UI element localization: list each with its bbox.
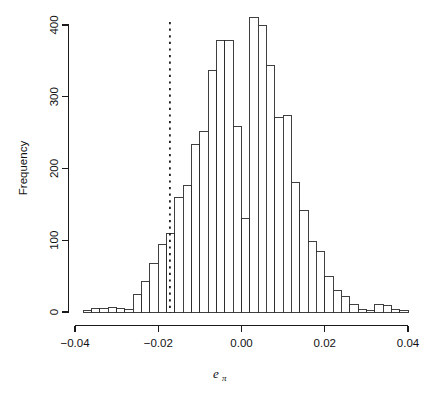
histogram-bar <box>291 182 299 312</box>
histogram-bar <box>308 242 316 312</box>
histogram-bar <box>117 308 125 312</box>
histogram-bar <box>250 18 258 312</box>
histogram-bar <box>366 311 374 312</box>
histogram-plot: 0100200300400 −0.04−0.020.000.020.04 Fre… <box>0 0 438 396</box>
histogram-bar <box>100 308 108 312</box>
x-axis-title-subscript: π <box>222 373 227 383</box>
histogram-bar <box>133 294 141 312</box>
histogram-bar <box>316 252 324 312</box>
y-tick-label: 200 <box>48 159 60 178</box>
histogram-bar <box>383 306 391 312</box>
histogram-bar <box>142 281 150 312</box>
x-tick-label: 0.04 <box>397 337 420 349</box>
y-tick-label: 300 <box>48 87 60 106</box>
histogram-bar <box>108 308 116 312</box>
histogram-bar <box>275 118 283 312</box>
y-tick-label: 400 <box>48 15 60 34</box>
histogram-bar <box>83 311 91 312</box>
histogram-bar <box>175 198 183 312</box>
histogram-figure: 0100200300400 −0.04−0.020.000.020.04 Fre… <box>0 0 438 396</box>
y-axis-ticks: 0100200300400 <box>48 15 69 315</box>
histogram-bar <box>358 310 366 312</box>
x-axis-title-base: e <box>213 366 219 381</box>
histogram-bar <box>158 245 166 312</box>
x-tick-label: −0.02 <box>144 337 173 349</box>
histogram-bar <box>258 25 266 312</box>
histogram-bars <box>83 18 408 312</box>
y-axis-title: Frequency <box>17 141 29 196</box>
x-tick-label: 0.02 <box>314 337 336 349</box>
x-tick-label: −0.04 <box>60 337 90 349</box>
histogram-bar <box>183 185 191 312</box>
histogram-bar <box>233 127 241 312</box>
histogram-bar <box>283 115 291 312</box>
histogram-bar <box>200 131 208 312</box>
histogram-bar <box>92 308 100 312</box>
histogram-bar <box>217 40 225 312</box>
histogram-bar <box>333 290 341 312</box>
histogram-bar <box>192 145 200 312</box>
y-tick-label: 0 <box>48 309 60 315</box>
histogram-bar <box>300 210 308 312</box>
y-tick-label: 100 <box>48 231 60 250</box>
histogram-bar <box>266 66 274 312</box>
histogram-bar <box>341 296 349 312</box>
histogram-bar <box>391 310 399 312</box>
histogram-bar <box>350 304 358 312</box>
histogram-bar <box>225 40 233 312</box>
x-tick-label: 0.00 <box>230 337 252 349</box>
histogram-bar <box>125 310 133 312</box>
histogram-bar <box>208 70 216 312</box>
x-axis-ticks: −0.04−0.020.000.020.04 <box>60 326 419 350</box>
histogram-bar <box>242 219 250 312</box>
histogram-bar <box>400 311 408 312</box>
histogram-bar <box>325 277 333 312</box>
histogram-bar <box>150 263 158 312</box>
histogram-bar <box>375 305 383 312</box>
